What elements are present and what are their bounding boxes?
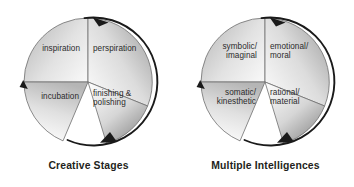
multiple-intelligences-wheel xyxy=(177,0,354,160)
multiple-intelligences-wedges xyxy=(201,18,329,143)
creative-stages-wedges xyxy=(24,18,152,143)
wedge-symbolic-imaginal[interactable] xyxy=(201,18,265,82)
diagram-creative-stages: inspiration perspiration finishing & pol… xyxy=(0,0,177,187)
wedge-somatic-kinesthetic[interactable] xyxy=(201,82,265,141)
diagram-multiple-intelligences: symbolic/ imaginal emotional/ moral rati… xyxy=(177,0,354,187)
diagram-title-creative-stages: Creative Stages xyxy=(0,160,177,171)
wedge-incubation[interactable] xyxy=(24,82,88,141)
wedge-inspiration[interactable] xyxy=(24,18,88,82)
creative-stages-wheel xyxy=(0,0,177,160)
figure-root: inspiration perspiration finishing & pol… xyxy=(0,0,354,187)
diagram-title-multiple-intelligences: Multiple Intelligences xyxy=(177,160,354,171)
